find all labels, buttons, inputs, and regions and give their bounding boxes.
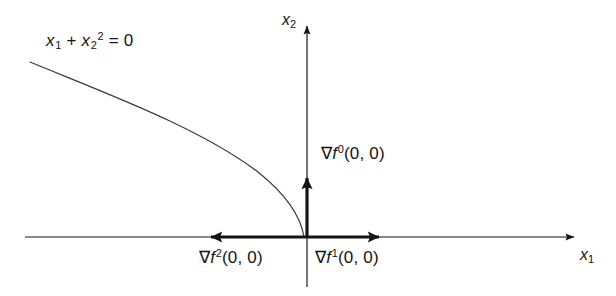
- equation-x1-symbol: x: [46, 31, 55, 50]
- grad-f2-arguments: (0, 0): [222, 248, 263, 267]
- x2-axis-label-subscript: 2: [290, 18, 296, 30]
- grad-f2-label: ∇f2(0, 0): [199, 247, 263, 268]
- x1-axis-label-symbol: x: [580, 246, 588, 263]
- grad-f1-label: ∇f1(0, 0): [315, 247, 379, 268]
- nabla-icon: ∇: [315, 248, 326, 267]
- x1-axis-label: x1: [580, 246, 594, 265]
- grad-f1-function-symbol: f: [326, 248, 331, 267]
- x2-axis-label-symbol: x: [282, 11, 290, 28]
- equation-x2-subscript: 2: [91, 39, 97, 51]
- equation-plus-operator: +: [62, 31, 82, 50]
- grad-f0-label: ∇f0(0, 0): [321, 143, 385, 164]
- grad-f1-arguments: (0, 0): [338, 248, 379, 267]
- nabla-icon: ∇: [199, 248, 210, 267]
- nabla-icon: ∇: [321, 144, 332, 163]
- equation-equals-zero: = 0: [104, 31, 134, 50]
- curve-equation-label: x1 + x22 = 0: [46, 30, 134, 51]
- grad-f0-function-symbol: f: [332, 144, 337, 163]
- grad-f0-arguments: (0, 0): [344, 144, 385, 163]
- x2-axis-label: x2: [282, 11, 296, 30]
- constraint-curve-path: [30, 62, 304, 237]
- grad-f2-function-symbol: f: [210, 248, 215, 267]
- equation-x2-symbol: x: [82, 31, 91, 50]
- x1-axis-label-subscript: 1: [588, 253, 594, 265]
